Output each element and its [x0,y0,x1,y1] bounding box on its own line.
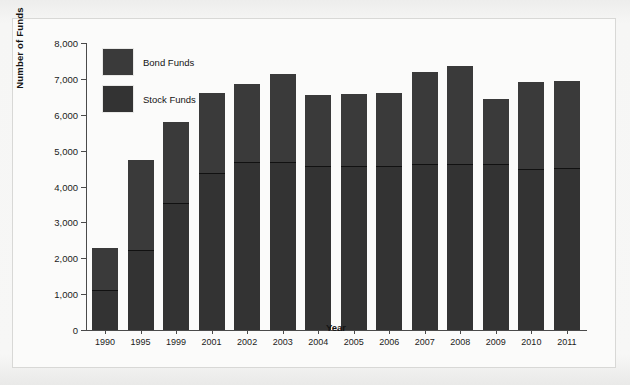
bar-segment-bond-funds[interactable] [518,82,544,170]
x-tick-label: 2001 [202,337,222,347]
y-tick-label: 4,000 [54,181,78,192]
bar-segment-bond-funds[interactable] [341,94,367,167]
legend-item[interactable]: Bond Funds [102,48,252,76]
y-tick-label: 1,000 [54,289,78,300]
x-tick-label: 2007 [415,337,435,347]
bar-segment-stock-funds[interactable] [376,167,402,330]
bar-segment-stock-funds[interactable] [270,163,296,330]
x-tick: 2003 [270,330,296,350]
bar-segment-stock-funds[interactable] [518,170,544,330]
y-tick-label: 6,000 [54,109,78,120]
x-tick-label: 2009 [486,337,506,347]
bar-segment-bond-funds[interactable] [270,74,296,164]
bar-segment-bond-funds[interactable] [447,66,473,165]
x-tick-label: 2006 [379,337,399,347]
x-tick-label: 2008 [450,337,470,347]
x-tick: 2006 [376,330,402,350]
legend-label: Stock Funds [143,94,196,105]
legend-label: Bond Funds [143,57,194,68]
bar-segment-stock-funds[interactable] [483,165,509,330]
x-tick-label: 1999 [166,337,186,347]
y-tick-label: 7,000 [54,73,78,84]
bar-group[interactable] [483,43,509,330]
legend: Bond FundsStock Funds [102,48,252,122]
bar-segment-stock-funds[interactable] [447,165,473,330]
bar-segment-bond-funds[interactable] [554,81,580,169]
x-tick-label: 2010 [521,337,541,347]
bar-segment-stock-funds[interactable] [341,167,367,330]
y-tick-label: 8,000 [54,38,78,49]
x-tick-label: 2003 [273,337,293,347]
bar-segment-stock-funds[interactable] [128,251,154,330]
x-tick: 2002 [234,330,260,350]
x-tick: 1995 [128,330,154,350]
figure: Number of Funds 01,0002,0003,0004,0005,0… [0,0,630,385]
x-tick: 1990 [92,330,118,350]
x-tick: 2004 [305,330,331,350]
x-tick-label: 2005 [344,337,364,347]
bar-group[interactable] [376,43,402,330]
y-tick-label: 3,000 [54,217,78,228]
x-tick: 2011 [554,330,580,350]
bar-segment-bond-funds[interactable] [412,72,438,165]
x-tick: 2009 [483,330,509,350]
legend-swatch [102,48,134,76]
x-tick-label: 2004 [308,337,328,347]
bar-segment-bond-funds[interactable] [163,122,189,205]
y-tick-label: 0 [73,325,78,336]
bar-segment-bond-funds[interactable] [483,99,509,165]
x-tick: 2001 [199,330,225,350]
bar-segment-stock-funds[interactable] [412,165,438,330]
bar-group[interactable] [554,43,580,330]
x-tick-label: 1990 [95,337,115,347]
bar-segment-stock-funds[interactable] [554,169,580,330]
x-tick-label: 2011 [557,337,576,347]
x-tick: 2005 [341,330,367,350]
x-axis-ticks: 1990199519992001200220032004200520062007… [86,330,586,350]
y-tick-label: 5,000 [54,145,78,156]
x-tick: 1999 [163,330,189,350]
bar-group[interactable] [270,43,296,330]
bar-segment-stock-funds[interactable] [199,174,225,330]
bar-segment-bond-funds[interactable] [128,160,154,251]
y-tick-label: 2,000 [54,253,78,264]
bar-segment-stock-funds[interactable] [234,163,260,330]
bar-segment-bond-funds[interactable] [92,248,118,291]
bar-group[interactable] [341,43,367,330]
bar-group[interactable] [305,43,331,330]
bar-segment-stock-funds[interactable] [305,167,331,330]
x-tick: 2010 [518,330,544,350]
bar-group[interactable] [412,43,438,330]
legend-item[interactable]: Stock Funds [102,85,252,113]
y-axis-title: Number of Funds [14,0,25,118]
bar-group[interactable] [447,43,473,330]
bar-segment-stock-funds[interactable] [163,204,189,330]
bar-segment-bond-funds[interactable] [376,93,402,167]
x-tick: 2007 [412,330,438,350]
x-tick-label: 1995 [131,337,151,347]
x-tick: 2008 [447,330,473,350]
x-axis-title: Year [86,322,586,333]
legend-swatch [102,85,134,113]
bar-segment-bond-funds[interactable] [305,95,331,167]
x-tick-label: 2002 [237,337,257,347]
bar-group[interactable] [518,43,544,330]
